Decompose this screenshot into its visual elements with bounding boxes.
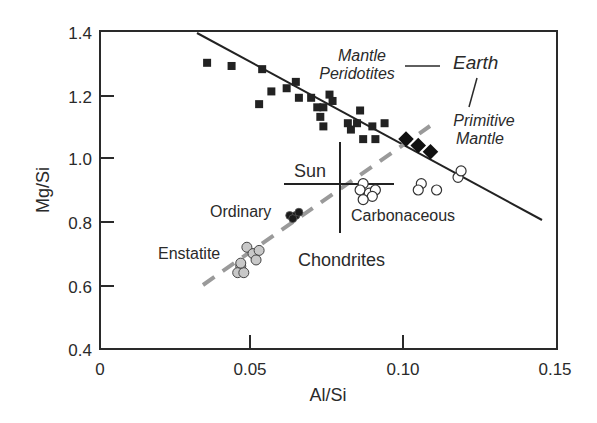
annotation-sun: Sun (294, 161, 326, 181)
ordinary-chondrite-point (295, 208, 303, 216)
mantle-peridotite-point (283, 84, 291, 92)
carbonaceous-chondrite-point (358, 195, 368, 205)
x-tick-label: 0.10 (386, 360, 419, 379)
annotation-carbonaceous: Carbonaceous (351, 207, 455, 224)
x-axis-ticks (250, 335, 403, 349)
annotation-ordinary: Ordinary (210, 203, 271, 220)
x-axis-tick-labels: 0 0.05 0.10 0.15 (95, 360, 571, 379)
ordinary-chondrite-point (289, 215, 297, 223)
y-axis-ticks (100, 96, 114, 286)
annotation-enstatite: Enstatite (158, 245, 220, 262)
x-axis-title: Al/Si (309, 385, 346, 405)
carbonaceous-chondrite-point (413, 185, 423, 195)
y-axis-title: Mg/Si (33, 167, 53, 213)
mantle-peridotite-point (228, 62, 236, 70)
annotation-peridotites: Peridotites (319, 65, 395, 82)
mantle-peridotite-point (267, 87, 275, 95)
mantle-peridotite-point (371, 135, 379, 143)
y-tick-label: 0.6 (68, 278, 92, 297)
mantle-peridotite-point (381, 119, 389, 127)
annotation-chondrites: Chondrites (298, 250, 385, 270)
carbonaceous-chondrite-point (456, 166, 466, 176)
mantle-peridotite-point (319, 103, 327, 111)
enstatite-chondrite-point (236, 258, 246, 268)
carbonaceous-chondrite-point (367, 191, 377, 201)
y-tick-label: 1.2 (68, 88, 92, 107)
x-tick-label: 0.05 (233, 360, 266, 379)
mantle-peridotite-point (356, 107, 364, 115)
mantle-peridotite-point (368, 122, 376, 130)
mantle-peridotite-point (292, 78, 300, 86)
annotation-primitive-mantle: Mantle (456, 130, 504, 147)
enstatite-chondrite-point (239, 268, 249, 278)
mantle-peridotite-point (329, 97, 337, 105)
scatter-chart: 0.4 0.6 0.8 1.0 1.2 1.4 0 0.05 0.10 0.15… (0, 0, 597, 423)
mantle-peridotite-point (203, 59, 211, 67)
mantle-peridotite-point (258, 65, 266, 73)
y-tick-label: 1.0 (68, 150, 92, 169)
mantle-peridotite-point (359, 135, 367, 143)
annotation-earth: Earth (453, 52, 498, 73)
mantle-peridotite-point (307, 94, 315, 102)
earth-connector-diagonal (469, 78, 477, 107)
y-tick-label: 0.8 (68, 214, 92, 233)
mantle-peridotite-point (295, 94, 303, 102)
data-markers (203, 59, 466, 278)
x-tick-label: 0.15 (538, 360, 571, 379)
annotation-primitive: Primitive (453, 112, 514, 129)
y-tick-label: 0.4 (68, 341, 92, 360)
y-axis-tick-labels: 0.4 0.6 0.8 1.0 1.2 1.4 (68, 24, 92, 360)
enstatite-chondrite-point (254, 245, 264, 255)
mantle-peridotite-point (316, 113, 324, 121)
carbonaceous-chondrite-point (432, 185, 442, 195)
mantle-peridotite-point (347, 126, 355, 134)
mantle-peridotite-point (319, 122, 327, 130)
y-tick-label: 1.4 (68, 24, 92, 43)
x-tick-label: 0 (95, 360, 104, 379)
mantle-peridotite-point (255, 100, 263, 108)
carbonaceous-chondrite-point (355, 185, 365, 195)
annotation-mantle: Mantle (338, 47, 386, 64)
enstatite-chondrite-point (251, 255, 261, 265)
